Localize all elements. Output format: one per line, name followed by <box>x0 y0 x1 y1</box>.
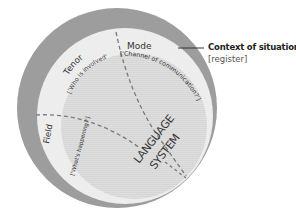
register-diagram: Mode ['Channel of communication?'] Tenor… <box>0 0 296 215</box>
context-of-situation-label: Context of situation <box>208 42 296 52</box>
mode-label: Mode <box>127 41 152 51</box>
register-label: [register] <box>208 54 247 64</box>
